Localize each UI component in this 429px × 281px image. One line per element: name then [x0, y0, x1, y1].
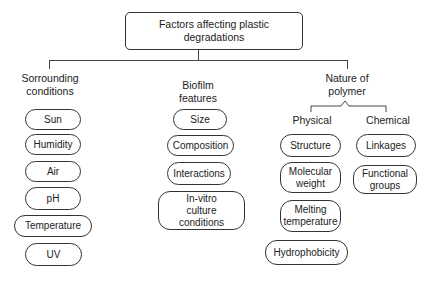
- item-ph: pH: [25, 187, 81, 210]
- item-in-vitro-culture-conditions: In-vitro culture conditions: [158, 191, 245, 230]
- category-biofilm-features: Biofilm features: [166, 79, 230, 105]
- item-linkages: Linkages: [356, 134, 416, 157]
- item-molecular-weight: Molecular weight: [280, 162, 341, 193]
- item-melting-temperature: Melting temperature: [280, 200, 341, 232]
- item-hydrophobicity: Hydrophobicity: [265, 240, 348, 265]
- subcategory-physical: Physical: [286, 114, 338, 127]
- item-structure: Structure: [280, 134, 341, 157]
- category-nature-of-polymer: Nature of polymer: [316, 72, 378, 98]
- item-functional-groups: Functional groups: [353, 165, 417, 194]
- item-sun: Sun: [25, 109, 81, 130]
- item-air: Air: [25, 161, 81, 182]
- subcategory-chemical: Chemical: [360, 114, 416, 127]
- item-size: Size: [173, 109, 227, 130]
- category-surrounding-conditions: Sorrounding conditions: [10, 72, 90, 98]
- item-composition: Composition: [167, 135, 234, 156]
- item-uv: UV: [25, 243, 82, 266]
- item-humidity: Humidity: [25, 134, 81, 155]
- item-temperature: Temperature: [14, 215, 92, 237]
- item-interactions: Interactions: [167, 162, 231, 185]
